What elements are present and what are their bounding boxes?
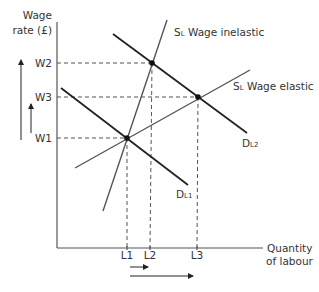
label-supply-elastic: SL Wage elastic: [233, 80, 314, 92]
y-axis-label-line2: rate (£): [12, 24, 52, 36]
label-demand-dl1: DL1: [176, 188, 192, 200]
label-demand-dl2: DL2: [242, 137, 258, 149]
tick-l3: L3: [191, 249, 204, 261]
demand-curve-dl1: [61, 88, 188, 185]
equilibrium-point-w2-l2: [149, 60, 155, 66]
supply-curve-inelastic: [103, 20, 167, 211]
x-axis-label-line1: Quantity: [267, 242, 312, 254]
tick-w1: W1: [35, 132, 52, 144]
tick-w3: W3: [35, 91, 52, 103]
tick-w2: W2: [35, 57, 52, 69]
tick-l1: L1: [121, 249, 134, 261]
tick-l2: L2: [144, 249, 157, 261]
label-supply-inelastic: SL Wage inelastic: [174, 26, 264, 38]
guide-l3: [197, 97, 198, 248]
equilibrium-point-w3-l3: [195, 94, 201, 100]
equilibrium-point-w1-l1: [124, 135, 130, 141]
labour-market-diagram: Wage rate (£) Quantity of labour W2 W3 W…: [0, 0, 319, 292]
x-axis-label-line2: of labour: [266, 255, 314, 267]
y-axis-label-line1: Wage: [23, 9, 52, 21]
